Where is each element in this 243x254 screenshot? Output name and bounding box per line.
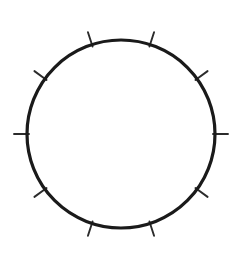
figure-canvas: [0, 0, 243, 254]
background: [0, 0, 243, 254]
circle-diagram: [0, 0, 243, 254]
